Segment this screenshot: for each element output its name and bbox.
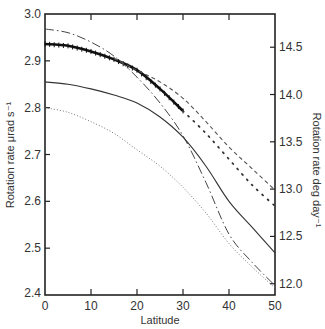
series-fine-dotted: [45, 108, 275, 288]
plot-border: [45, 14, 275, 295]
x-tick-label: 30: [176, 299, 190, 313]
x-tick-label: 50: [268, 299, 282, 313]
x-axis-title: Latitude: [140, 314, 179, 326]
y-axis-title-right: Rotation rate deg day⁻¹: [311, 113, 323, 228]
series-layer: [45, 29, 275, 288]
y-tick-label-left: 2.4: [24, 286, 41, 300]
y-axis-title-left: Rotation rate μrad s⁻¹: [4, 101, 16, 208]
series-solid: [45, 82, 275, 253]
x-tick-label: 40: [222, 299, 236, 313]
x-tick-label: 0: [42, 299, 49, 313]
y-tick-label-right: 13.5: [279, 135, 303, 149]
y-tick-label-right: 13.0: [279, 182, 303, 196]
series-large-dotted: [183, 111, 275, 206]
y-tick-label-left: 3.0: [24, 7, 41, 21]
y-tick-label-right: 12.5: [279, 229, 303, 243]
y-tick-label-left: 2.7: [24, 148, 41, 162]
tick-labels: 010203040502.42.52.62.72.82.93.012.012.5…: [24, 7, 302, 313]
x-tick-label: 20: [130, 299, 144, 313]
y-tick-label-left: 2.6: [24, 194, 41, 208]
series-thick-observed: [45, 44, 183, 111]
y-tick-label-left: 2.9: [24, 54, 41, 68]
rotation-rate-chart: 010203040502.42.52.62.72.82.93.012.012.5…: [0, 0, 325, 329]
y-tick-label-right: 12.0: [279, 277, 303, 291]
y-tick-label-left: 2.5: [24, 241, 41, 255]
y-tick-label-right: 14.0: [279, 88, 303, 102]
plot-frame: [45, 14, 275, 295]
y-tick-label-left: 2.8: [24, 101, 41, 115]
x-tick-label: 10: [84, 299, 98, 313]
y-tick-label-right: 14.5: [279, 40, 303, 54]
